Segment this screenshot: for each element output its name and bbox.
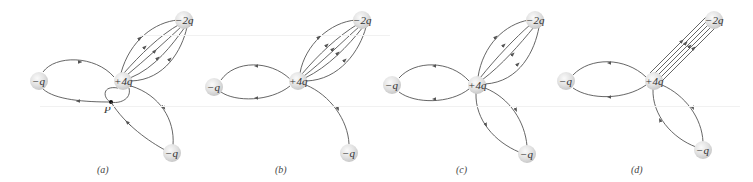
field-line: [221, 86, 290, 99]
arrow-icon: [127, 122, 131, 126]
charge-bottom-label: −q: [165, 147, 178, 159]
field-line: [221, 65, 290, 80]
panel-c: −q +4q −2q −q (c): [383, 11, 545, 176]
field-line: [131, 86, 173, 145]
field-line: [662, 85, 703, 142]
panel-label-a: (a): [97, 164, 109, 176]
field-line: [482, 27, 534, 80]
field-line: [653, 89, 696, 147]
charge-top-label: −2q: [705, 14, 724, 26]
charge-top-label: −2q: [353, 14, 372, 26]
field-line: [302, 24, 358, 74]
field-line: [43, 89, 111, 102]
charge-top-label: −2q: [526, 14, 545, 26]
charge-center-label: +4q: [289, 75, 308, 87]
field-line: [476, 93, 519, 152]
panel-d: −q +4q −2q −q (d): [557, 11, 724, 176]
charge-left-label: −q: [32, 75, 45, 87]
faint-guide-line: [40, 106, 740, 107]
point-p-label: P: [103, 103, 111, 115]
field-line: [127, 26, 182, 75]
charge-top-label: −2q: [175, 14, 194, 26]
field-line-figure: P −q +4q −2q −q: [0, 0, 753, 182]
field-line: [478, 20, 529, 77]
arrow-icon: [143, 47, 145, 49]
arrow-icon: [680, 41, 682, 43]
arrow-icon: [660, 120, 661, 122]
panel-label-b: (b): [275, 164, 287, 176]
field-line: [573, 85, 646, 97]
charge-bottom-label: −q: [520, 148, 533, 160]
arrow-icon: [502, 45, 504, 47]
field-line: [43, 60, 114, 77]
field-line: [111, 102, 165, 150]
field-line: [304, 26, 360, 76]
arrow-icon: [325, 45, 327, 47]
charge-center-label: +4q: [645, 75, 664, 87]
arrow-icon: [516, 64, 518, 66]
field-line: [656, 21, 712, 77]
arrow-icon: [343, 60, 345, 62]
panel-label-d: (d): [631, 164, 643, 176]
arrow-icon: [515, 108, 516, 110]
field-line: [653, 19, 709, 75]
field-line: [485, 88, 527, 146]
charge-center-label: +4q: [114, 75, 133, 87]
charge-center-label: +4q: [468, 79, 487, 91]
field-line: [306, 85, 349, 144]
charge-left-label: −q: [385, 79, 398, 91]
field-line: [399, 65, 469, 81]
charge-left-label: −q: [559, 75, 572, 87]
arrow-icon: [511, 54, 513, 56]
field-line: [659, 23, 715, 79]
charge-bottom-label: −q: [342, 147, 355, 159]
charge-left-label: −q: [207, 81, 220, 93]
arrow-icon: [168, 59, 170, 61]
field-line-loop: [105, 88, 129, 103]
charge-bottom-label: −q: [696, 144, 709, 156]
field-line: [573, 62, 646, 77]
arrow-icon: [337, 107, 338, 109]
field-line: [480, 24, 531, 78]
diagram-canvas: P −q +4q −2q −q: [0, 0, 753, 182]
panel-label-c: (c): [456, 164, 468, 176]
faint-guide-line: [140, 35, 390, 36]
